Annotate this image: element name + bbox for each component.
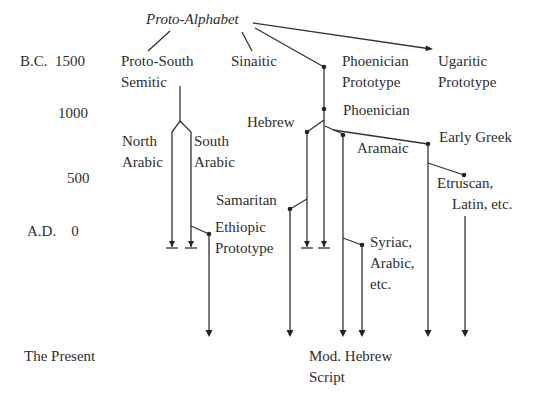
node-early-greek: Early Greek [439,127,512,148]
node-proto-alphabet: Proto-Alphabet [146,9,239,30]
node-north-arabic: North Arabic [122,131,163,173]
node-samaritan: Samaritan [216,190,277,211]
node-south-arabic: South Arabic [194,131,235,173]
node-aramaic: Aramaic [357,138,409,159]
node-proto-south-semitic: Proto-South Semitic [121,51,194,93]
node-ethiopic-prototype: Ethiopic Prototype [215,217,273,259]
node-hebrew: Hebrew [247,112,294,133]
node-syriac-arabic: Syriac, Arabic, etc. [370,232,415,295]
node-phoenician-prototype: Phoenician Prototype [342,51,409,93]
node-phoenician: Phoenician [343,100,410,121]
node-ugaritic-prototype: Ugaritic Prototype [438,51,496,93]
node-sinaitic: Sinaitic [231,51,277,72]
node-etruscan-latin: Etruscan, Latin, etc. [437,173,512,215]
node-modern-hebrew-script: Mod. Hebrew Script [309,346,392,388]
